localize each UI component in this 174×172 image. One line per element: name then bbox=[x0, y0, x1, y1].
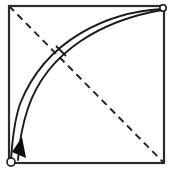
inner-arc-path bbox=[18, 10, 162, 160]
figure-container bbox=[0, 0, 174, 172]
start-point-marker-icon bbox=[160, 5, 166, 11]
end-point-marker-icon bbox=[7, 158, 15, 166]
diagram-canvas bbox=[0, 0, 174, 172]
direction-arrowhead-icon bbox=[12, 137, 26, 158]
